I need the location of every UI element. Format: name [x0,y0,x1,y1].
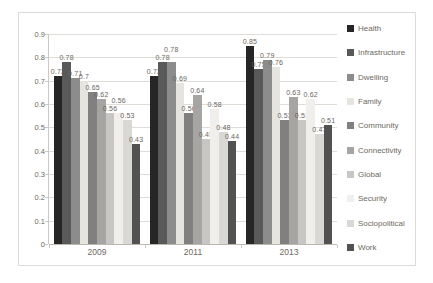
bar-work-2013: 0.51 [324,125,333,244]
bar-infrastructure-2011: 0.78 [158,62,167,244]
bar-community-2013: 0.53 [280,120,289,244]
gridline [49,34,337,35]
y-tick-mark [45,34,48,35]
y-tick-label: 0.6 [21,100,45,109]
legend: HealthInfrastructureDwellingFamilyCommun… [347,24,413,252]
legend-swatch [347,244,354,251]
legend-item-dwelling: Dwelling [347,73,413,82]
x-axis-labels: 200920112013 [49,247,337,257]
bar-family-2009: 0.7 [80,81,89,244]
legend-label: Sociopolitical [358,219,405,228]
value-label: 0.43 [129,136,143,143]
bar-family-2013: 0.76 [272,67,281,244]
legend-swatch [347,49,354,56]
y-tick-mark [45,81,48,82]
value-label: 0.44 [225,133,239,140]
bar-health-2009: 0.72 [54,76,63,244]
y-tick-label: 0.7 [21,76,45,85]
value-label: 0.78 [59,54,73,61]
chart-image: 00.10.20.30.40.50.60.70.80.9 0.720.780.7… [0,0,433,283]
y-tick-label: 0 [21,240,45,249]
value-label: 0.7 [79,73,89,80]
bar-dwelling-2011: 0.78 [167,62,176,244]
legend-label: Infrastructure [358,48,405,57]
x-tick-mark [337,245,338,248]
legend-item-health: Health [347,24,413,33]
legend-swatch [347,98,354,105]
bar-group-2009: 0.720.780.710.70.650.620.560.560.530.43 [49,34,145,244]
bar-infrastructure-2009: 0.78 [62,62,71,244]
bar-global-2011: 0.45 [202,139,211,244]
value-label: 0.79 [260,52,274,59]
legend-swatch [347,171,354,178]
value-label: 0.48 [216,124,230,131]
bar-security-2013: 0.62 [306,99,315,244]
bar-community-2009: 0.65 [88,92,97,244]
value-label: 0.63 [286,89,300,96]
y-tick-mark [45,244,48,245]
bar-health-2011: 0.72 [150,76,159,244]
bar-group-2011: 0.720.780.780.690.560.640.450.580.480.44 [145,34,241,244]
y-tick-mark [45,151,48,152]
y-tick-label: 0.2 [21,193,45,202]
value-label: 0.69 [173,75,187,82]
legend-label: Community [358,121,398,130]
value-label: 0.65 [85,84,99,91]
legend-swatch [347,25,354,32]
legend-item-work: Work [347,243,413,252]
y-tick-mark [45,57,48,58]
legend-item-connectivity: Connectivity [347,146,413,155]
x-axis-line [49,244,337,245]
value-label: 0.76 [269,59,283,66]
value-label: 0.56 [112,97,126,104]
bar-global-2013: 0.53 [298,120,307,244]
legend-swatch [347,74,354,81]
bar-dwelling-2009: 0.71 [71,78,80,244]
y-tick-mark [45,197,48,198]
value-label: 0.62 [304,91,318,98]
value-label: 0.58 [208,101,222,108]
x-category-label: 2009 [49,247,145,257]
legend-label: Security [358,194,387,203]
value-label: 0.56 [103,105,117,112]
gridline [49,81,337,82]
legend-item-family: Family [347,97,413,106]
bar-connectivity-2011: 0.64 [193,95,202,244]
y-tick-label: 0.9 [21,30,45,39]
x-category-label: 2013 [241,247,337,257]
y-tick-label: 0.4 [21,146,45,155]
legend-label: Connectivity [358,146,402,155]
value-label: 0.62 [94,91,108,98]
bar-infrastructure-2013: 0.75 [254,69,263,244]
bar-sociopolitical-2013: 0.47 [315,134,324,244]
legend-label: Work [358,243,377,252]
y-tick-mark [45,221,48,222]
value-label: 0.78 [164,46,178,53]
y-tick-label: 0.1 [21,216,45,225]
legend-label: Health [358,24,381,33]
bar-dwelling-2013: 0.79 [263,60,272,244]
y-tick-mark [45,174,48,175]
chart-frame: 00.10.20.30.40.50.60.70.80.9 0.720.780.7… [18,12,416,266]
bar-group-2013: 0.850.750.790.760.530.630.530.620.470.51 [241,34,337,244]
legend-swatch [347,220,354,227]
value-label: 0.53 [120,112,134,119]
bar-work-2009: 0.43 [132,144,141,244]
gridline [49,57,337,58]
legend-item-security: Security [347,194,413,203]
legend-item-community: Community [347,121,413,130]
legend-label: Family [358,97,382,106]
bar-global-2009: 0.56 [106,113,115,244]
bar-community-2011: 0.56 [184,113,193,244]
legend-swatch [347,195,354,202]
bar-health-2013: 0.85 [246,46,255,244]
value-label: 0.64 [190,87,204,94]
y-tick-label: 0.8 [21,53,45,62]
plot-area: 0.720.780.710.70.650.620.560.560.530.430… [49,34,337,244]
y-tick-mark [45,104,48,105]
bar-connectivity-2009: 0.62 [97,99,106,244]
bar-work-2011: 0.44 [228,141,237,244]
y-tick-label: 0.3 [21,170,45,179]
bar-groups: 0.720.780.710.70.650.620.560.560.530.430… [49,34,337,244]
x-category-label: 2011 [145,247,241,257]
